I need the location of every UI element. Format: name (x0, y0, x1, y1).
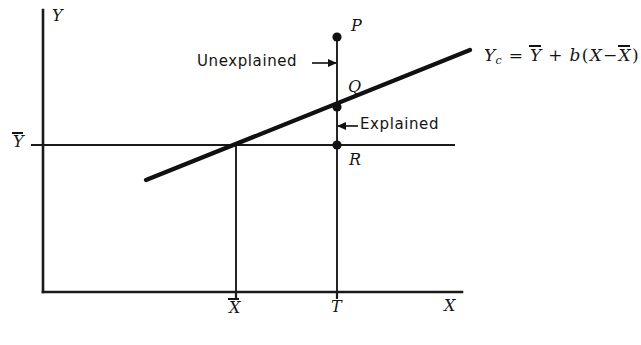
equation-open-paren: ( (581, 45, 590, 65)
point-q-dot (332, 102, 341, 111)
unexplained-label: Unexplained (197, 54, 297, 69)
equation-x-mean: X (619, 46, 631, 64)
y-mean-symbol: Y (13, 133, 24, 150)
equation-close-paren: ) (631, 45, 640, 65)
x-axis-label: X (444, 298, 455, 314)
equation-lhs-subscript: c (496, 54, 502, 67)
equation-equals: = (508, 45, 525, 65)
x-mean-label: X (229, 299, 240, 316)
x-tick-label-t: T (331, 299, 342, 315)
point-label-p: P (351, 18, 362, 34)
equation-coefficient: b (570, 45, 581, 65)
regression-variation-figure: Y X Y X T P Q R Unexplained Explained Yc… (0, 0, 641, 345)
equation-variable: X (590, 45, 602, 65)
point-p-dot (332, 32, 341, 41)
equation-minus: − (602, 45, 619, 65)
y-axis-label: Y (52, 8, 63, 24)
unexplained-arrow-head (328, 59, 337, 67)
equation-plus: + (547, 45, 564, 65)
equation-lhs-base: Y (484, 45, 496, 65)
point-r-dot (332, 140, 341, 149)
y-mean-label: Y (13, 133, 24, 150)
equation-y-mean: Y (530, 46, 542, 64)
x-mean-symbol: X (229, 299, 240, 316)
explained-arrow-head (337, 122, 346, 130)
point-label-q: Q (348, 79, 361, 95)
regression-equation: Yc = Y + b(X−X) (484, 46, 640, 66)
point-label-r: R (349, 152, 361, 168)
explained-label: Explained (360, 117, 439, 132)
